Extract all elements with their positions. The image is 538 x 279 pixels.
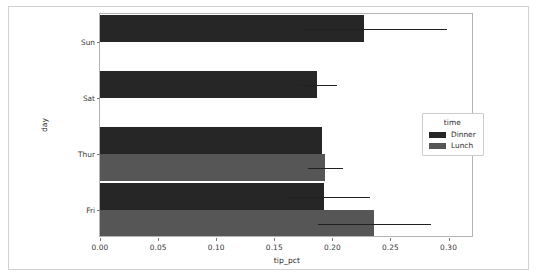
y-tick-label-sat: Sat xyxy=(83,94,95,103)
x-tick-mark xyxy=(216,238,217,241)
x-axis-label: tip_pct xyxy=(100,256,474,265)
plot-surface xyxy=(100,14,472,236)
x-tick-mark xyxy=(390,238,391,241)
x-tick-label: 0.15 xyxy=(254,243,294,252)
x-tick-label: 0.10 xyxy=(196,243,236,252)
bar-thur-dinner xyxy=(100,127,322,154)
x-tick-label: 0.05 xyxy=(138,243,178,252)
bar-sat-dinner xyxy=(100,71,317,98)
x-tick-mark xyxy=(449,238,450,241)
error-bar-fri-lunch xyxy=(318,224,431,225)
legend-label-dinner: Dinner xyxy=(451,130,476,139)
y-tick-label-thur: Thur xyxy=(78,150,95,159)
error-bar-thur-lunch xyxy=(308,168,343,169)
legend-swatch-dinner xyxy=(429,132,446,138)
error-bar-fri-dinner xyxy=(285,197,370,198)
x-tick-label: 0.30 xyxy=(429,243,469,252)
y-tick-mark xyxy=(97,42,100,43)
y-tick-label-fri: Fri xyxy=(86,206,95,215)
x-tick-mark xyxy=(332,238,333,241)
y-tick-label-sun: Sun xyxy=(81,38,95,47)
bar-thur-lunch xyxy=(100,154,325,181)
legend-item-dinner[interactable]: Dinner xyxy=(429,130,476,139)
figure: 0.000.050.100.150.200.250.30 SunSatThurF… xyxy=(0,0,538,279)
x-tick-mark xyxy=(274,238,275,241)
legend-label-lunch: Lunch xyxy=(451,141,473,150)
y-tick-mark xyxy=(97,154,100,155)
x-tick-label: 0.25 xyxy=(370,243,410,252)
x-tick-label: 0.00 xyxy=(80,243,120,252)
plot-axes: 0.000.050.100.150.200.250.30 SunSatThurF… xyxy=(99,13,473,237)
error-bar-sun-dinner xyxy=(303,29,447,30)
x-tick-label: 0.20 xyxy=(312,243,352,252)
y-axis-label: day xyxy=(40,118,49,132)
y-tick-mark xyxy=(97,98,100,99)
y-tick-mark xyxy=(97,210,100,211)
legend[interactable]: time Dinner Lunch xyxy=(422,113,484,156)
x-tick-mark xyxy=(158,238,159,241)
x-tick-mark xyxy=(100,238,101,241)
error-bar-sat-dinner xyxy=(300,85,337,86)
legend-title: time xyxy=(429,118,476,127)
legend-item-lunch[interactable]: Lunch xyxy=(429,141,476,150)
legend-swatch-lunch xyxy=(429,143,446,149)
